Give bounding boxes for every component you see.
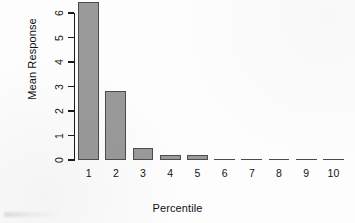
y-axis-tick-label: 4 — [52, 55, 66, 69]
y-axis-tick-label-text: 0 — [52, 153, 66, 167]
y-axis-tick-label: 3 — [52, 80, 66, 94]
y-axis-tick-label-text: 2 — [52, 104, 66, 118]
bar — [296, 159, 317, 160]
y-axis-tick — [68, 12, 74, 13]
bar — [78, 2, 99, 160]
x-axis-tick-label: 5 — [183, 168, 211, 179]
bar — [323, 159, 344, 160]
y-axis-tick — [68, 159, 74, 160]
y-axis-tick — [68, 86, 74, 87]
x-axis-tick-label: 10 — [319, 168, 347, 179]
bar-series — [75, 0, 350, 223]
y-axis-tick — [68, 135, 74, 136]
bar — [105, 91, 126, 160]
bar — [269, 159, 290, 160]
x-axis-tick-label: 8 — [265, 168, 293, 179]
y-axis-tick-label-text: 5 — [52, 31, 66, 45]
y-axis-tick-label: 0 — [52, 153, 66, 167]
bar — [187, 155, 208, 160]
y-axis-tick-label-text: 4 — [52, 55, 66, 69]
bar-chart-figure: 0123456 Mean Response 12345678910 Percen… — [0, 0, 355, 223]
y-axis-tick — [68, 110, 74, 111]
y-axis-tick-label-text: 6 — [52, 6, 66, 20]
x-axis-tick-label: 9 — [292, 168, 320, 179]
x-axis-title: Percentile — [0, 202, 355, 214]
bar — [214, 159, 235, 160]
bar — [241, 159, 262, 160]
x-axis-tick-label: 1 — [75, 168, 103, 179]
bar — [133, 148, 154, 160]
y-axis-tick-label: 5 — [52, 31, 66, 45]
y-axis-tick-label-text: 3 — [52, 80, 66, 94]
y-axis-tick-label: 2 — [52, 104, 66, 118]
plot-area: 0123456 Mean Response 12345678910 Percen… — [0, 0, 355, 223]
y-axis-tick-label: 6 — [52, 6, 66, 20]
y-axis-title: Mean Response — [26, 0, 38, 129]
x-axis-tick-label: 7 — [238, 168, 266, 179]
y-axis-tick-label-text: 1 — [52, 129, 66, 143]
x-axis-tick-label: 6 — [211, 168, 239, 179]
x-axis-tick-label: 3 — [129, 168, 157, 179]
x-axis-tick-label: 4 — [156, 168, 184, 179]
x-axis-tick-label: 2 — [102, 168, 130, 179]
y-axis-tick-label: 1 — [52, 129, 66, 143]
y-axis-tick — [68, 37, 74, 38]
y-axis-tick — [68, 61, 74, 62]
bar — [160, 155, 181, 160]
